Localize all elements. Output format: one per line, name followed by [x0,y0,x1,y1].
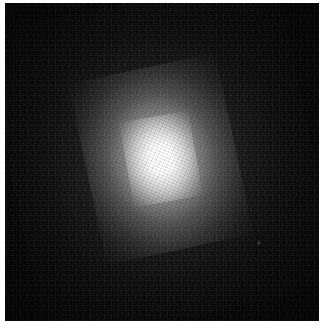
figure-frame [0,0,324,334]
detector-noise-layer [5,3,319,321]
astronomical-image-plate [5,3,319,321]
